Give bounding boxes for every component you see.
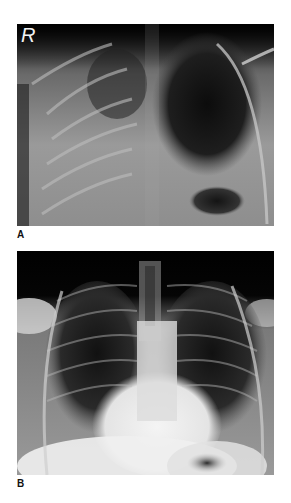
radiograph-image-b [17,251,274,475]
radiograph-image-a [17,24,274,226]
panel-label-b: B [17,479,24,489]
side-marker-right: R [21,25,35,45]
radiograph-panel-a: R [17,24,274,226]
panel-label-a: A [17,230,24,240]
radiograph-panel-b [17,251,274,475]
